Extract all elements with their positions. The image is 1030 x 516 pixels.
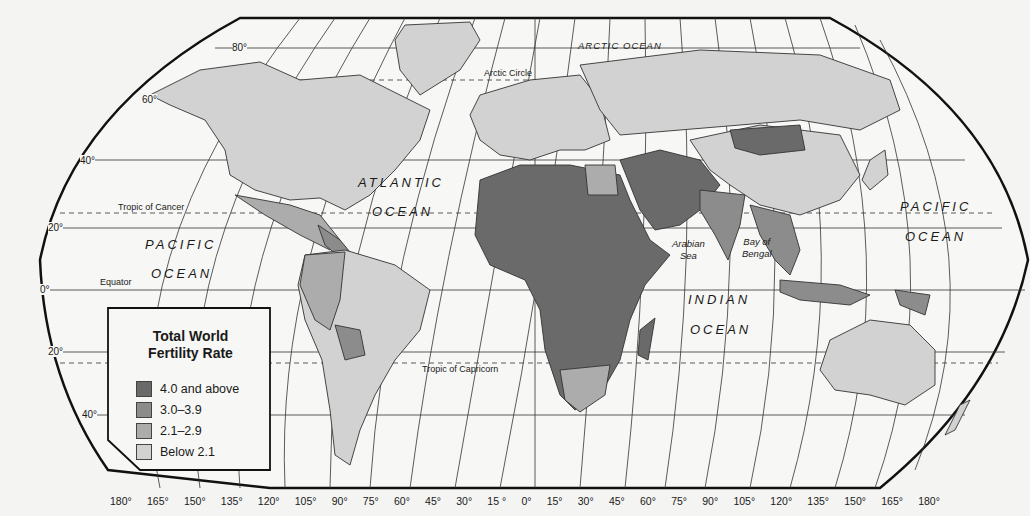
lat-60n: 60° xyxy=(142,94,157,105)
label-atlantic-ocean-1: ATLANTIC xyxy=(358,175,444,190)
egypt xyxy=(585,165,618,195)
swatch-high xyxy=(136,381,152,397)
legend-item-midhigh: 3.0–3.9 xyxy=(136,399,239,420)
label-pacific-west-1: PACIFIC xyxy=(145,237,216,252)
legend-item-mid: 2.1–2.9 xyxy=(136,420,239,441)
lat-20n: 20° xyxy=(48,222,63,233)
label-arabian-sea: Arabian Sea xyxy=(672,238,705,262)
legend-title: Total World Fertility Rate xyxy=(108,328,273,362)
label-equator: Equator xyxy=(100,277,132,287)
lat-80n: 80° xyxy=(232,42,247,53)
swatch-midhigh xyxy=(136,402,152,418)
lat-40n: 40° xyxy=(80,155,95,166)
legend-item-high: 4.0 and above xyxy=(136,378,239,399)
legend-item-low: Below 2.1 xyxy=(136,441,239,462)
lat-equator: 0° xyxy=(40,284,50,295)
legend-items: 4.0 and above 3.0–3.9 2.1–2.9 Below 2.1 xyxy=(136,378,239,462)
label-bay-of-bengal: Bay of Bengal xyxy=(742,236,772,260)
swatch-mid xyxy=(136,423,152,439)
legend: Total World Fertility Rate 4.0 and above… xyxy=(108,310,268,468)
lat-40s: 40° xyxy=(82,409,97,420)
label-atlantic-ocean-2: OCEAN xyxy=(372,204,433,219)
label-arctic-ocean: ARCTIC OCEAN xyxy=(578,40,662,51)
label-tropic-capricorn: Tropic of Capricorn xyxy=(422,364,498,374)
lat-20s: 20° xyxy=(48,346,63,357)
label-pacific-east-2: OCEAN xyxy=(905,229,966,244)
label-indian-ocean-2: OCEAN xyxy=(690,322,751,337)
label-indian-ocean-1: INDIAN xyxy=(688,292,750,307)
label-tropic-cancer: Tropic of Cancer xyxy=(118,202,184,212)
label-arctic-circle: Arctic Circle xyxy=(484,68,532,78)
label-pacific-west-2: OCEAN xyxy=(151,266,212,281)
label-pacific-east-1: PACIFIC xyxy=(900,199,971,214)
swatch-low xyxy=(136,444,152,460)
longitude-labels: 180° 165° 150° 135° 120° 105° 90° 75° 60… xyxy=(110,495,940,507)
